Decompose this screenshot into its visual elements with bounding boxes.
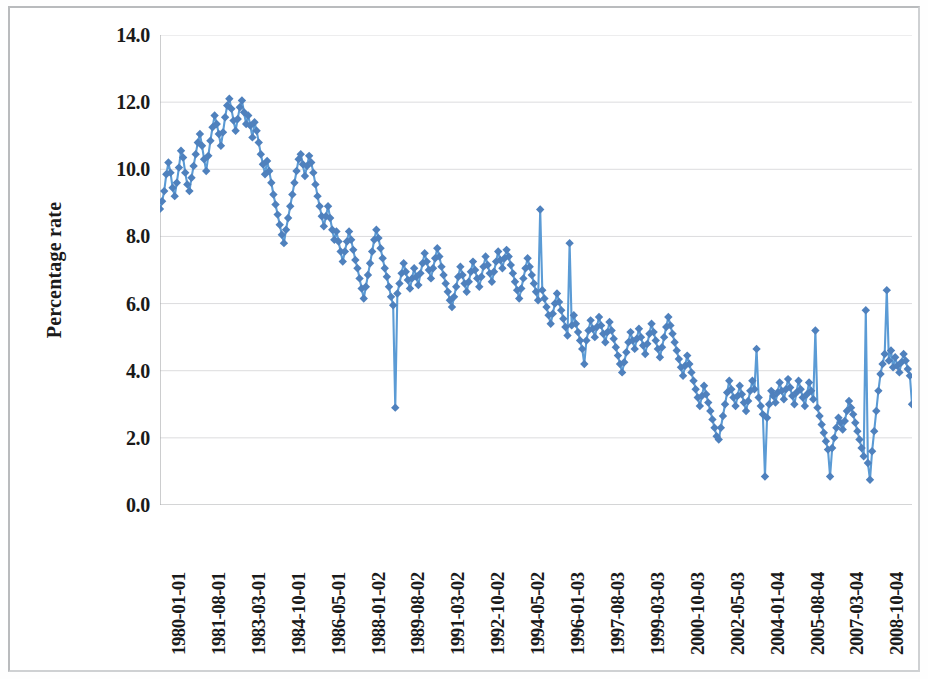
data-point-marker: [761, 472, 769, 480]
data-point-marker: [815, 412, 823, 420]
data-point-marker: [706, 407, 714, 415]
data-point-marker: [280, 239, 288, 247]
data-point-marker: [708, 415, 716, 423]
data-point-marker: [652, 336, 660, 344]
data-point-marker: [177, 147, 185, 155]
data-point-marker: [874, 387, 882, 395]
data-point-marker: [286, 202, 294, 210]
data-point-marker: [368, 247, 376, 255]
data-point-marker: [626, 328, 634, 336]
data-point-marker: [801, 402, 809, 410]
data-point-marker: [574, 328, 582, 336]
data-point-marker: [691, 385, 699, 393]
data-point-marker: [320, 222, 328, 230]
data-point-marker: [441, 279, 449, 287]
data-point-marker: [349, 246, 357, 254]
data-point-marker: [765, 400, 773, 408]
data-point-marker: [267, 179, 275, 187]
data-point-marker: [731, 402, 739, 410]
data-point-marker: [507, 261, 515, 269]
data-point-marker: [618, 368, 626, 376]
x-tick-label: 2007-03-04: [847, 515, 867, 655]
data-point-marker: [187, 173, 195, 181]
data-point-marker: [859, 452, 867, 460]
data-point-marker: [868, 447, 876, 455]
data-point-marker: [238, 96, 246, 104]
data-point-marker: [559, 314, 567, 322]
y-tick-label: 0.0: [64, 494, 150, 517]
data-point-marker: [475, 283, 483, 291]
data-point-marker: [883, 286, 891, 294]
data-point-marker: [351, 256, 359, 264]
x-tick-label: 1989-08-02: [408, 515, 428, 655]
data-point-marker: [444, 288, 452, 296]
data-point-marker: [284, 214, 292, 222]
x-tick-label: 1984-10-01: [289, 515, 309, 655]
data-point-marker: [248, 133, 256, 141]
data-point-marker: [511, 278, 519, 286]
x-tick-label: 1991-03-02: [448, 515, 468, 655]
data-point-marker: [160, 197, 166, 205]
data-point-marker: [271, 200, 279, 208]
data-point-marker: [631, 345, 639, 353]
series-markers: [160, 95, 912, 484]
data-point-marker: [523, 254, 531, 262]
data-point-marker: [784, 375, 792, 383]
data-point-marker: [641, 350, 649, 358]
x-tick-label: 1988-01-02: [369, 515, 389, 655]
data-point-marker: [670, 338, 678, 346]
data-point-marker: [660, 333, 668, 341]
data-point-marker: [853, 427, 861, 435]
plot-area: [160, 35, 912, 505]
data-point-marker: [290, 179, 298, 187]
axis-lines: [160, 35, 912, 505]
data-point-marker: [595, 313, 603, 321]
data-point-marker: [553, 289, 561, 297]
data-point-marker: [381, 264, 389, 272]
data-point-marker: [257, 150, 265, 158]
data-point-marker: [420, 249, 428, 257]
data-point-marker: [353, 264, 361, 272]
data-point-marker: [399, 259, 407, 267]
data-point-marker: [610, 335, 618, 343]
data-point-marker: [855, 435, 863, 443]
data-point-marker: [771, 398, 779, 406]
data-point-marker: [775, 378, 783, 386]
data-point-marker: [192, 150, 200, 158]
data-point-marker: [780, 395, 788, 403]
data-point-marker: [383, 273, 391, 281]
data-point-marker: [838, 425, 846, 433]
data-point-marker: [647, 320, 655, 328]
data-point-marker: [311, 180, 319, 188]
data-point-marker: [830, 434, 838, 442]
data-point-marker: [704, 398, 712, 406]
x-tick-label: 2002-05-03: [728, 515, 748, 655]
data-point-marker: [276, 220, 284, 228]
chart-page: Percentage rate 0.02.04.06.08.010.012.01…: [0, 0, 928, 679]
data-point-marker: [813, 403, 821, 411]
data-point-marker: [591, 333, 599, 341]
data-point-marker: [683, 351, 691, 359]
data-point-marker: [908, 400, 912, 408]
data-point-marker: [360, 294, 368, 302]
data-point-marker: [355, 274, 363, 282]
data-point-marker: [719, 412, 727, 420]
data-point-marker: [580, 360, 588, 368]
data-point-marker: [862, 306, 870, 314]
data-point-marker: [481, 252, 489, 260]
data-point-marker: [345, 227, 353, 235]
y-tick-label: 12.0: [64, 91, 150, 114]
data-point-marker: [866, 476, 874, 484]
data-point-marker: [376, 244, 384, 252]
data-point-marker: [811, 326, 819, 334]
data-point-marker: [305, 152, 313, 160]
data-point-marker: [820, 429, 828, 437]
data-point-marker: [601, 338, 609, 346]
data-point-marker: [696, 402, 704, 410]
data-point-marker: [175, 163, 183, 171]
data-point-marker: [622, 348, 630, 356]
data-point-marker: [614, 351, 622, 359]
data-point-marker: [372, 226, 380, 234]
data-point-marker: [469, 257, 477, 265]
y-axis-tick-labels: 0.02.04.06.08.010.012.014.0: [62, 0, 150, 679]
